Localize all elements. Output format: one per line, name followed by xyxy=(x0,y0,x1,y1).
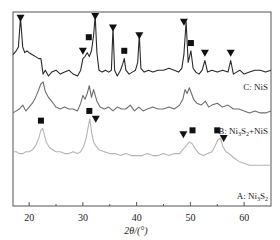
nis-triangle-marker xyxy=(91,13,99,20)
xrd-chart: 20 30 40 50 60 2θ/(°) C: NiS B: Ni3S2+Ni… xyxy=(0,0,280,240)
nis-triangle-marker xyxy=(179,131,187,138)
nis-triangle-marker xyxy=(135,32,143,39)
ni3s2-square-marker xyxy=(86,108,92,114)
ni3s2-square-marker xyxy=(190,127,196,133)
ni3s2-square-marker xyxy=(38,118,44,124)
nis-triangle-marker xyxy=(227,50,235,57)
x-axis-title: 2θ/(°) xyxy=(124,225,148,237)
series-label-c: C: NiS xyxy=(243,82,268,92)
ni3s2-square-marker xyxy=(121,48,127,54)
x-tick-label: 30 xyxy=(78,212,88,223)
nis-triangle-marker xyxy=(109,25,117,32)
ni3s2-square-marker xyxy=(86,34,92,40)
x-axis-ticks xyxy=(29,202,244,206)
nis-triangle-marker xyxy=(17,15,25,22)
series-label-b: B: Ni3S2+NiS xyxy=(218,126,268,137)
nis-triangle-marker xyxy=(79,48,87,55)
plot-frame xyxy=(13,12,271,206)
phase-markers xyxy=(17,13,235,142)
series-line-b xyxy=(13,82,271,113)
ni3s2-square-marker xyxy=(188,40,194,46)
x-tick-label: 50 xyxy=(185,212,195,223)
x-axis-tick-labels: 20 30 40 50 60 xyxy=(24,212,249,223)
x-tick-label: 40 xyxy=(132,212,142,223)
x-tick-label: 60 xyxy=(239,212,249,223)
series-line-c xyxy=(13,16,271,76)
nis-triangle-marker xyxy=(201,50,209,57)
nis-triangle-marker xyxy=(92,116,100,123)
series-lines xyxy=(13,16,271,165)
x-tick-label: 20 xyxy=(24,212,34,223)
series-label-a: A: Ni3S2 xyxy=(237,191,268,202)
